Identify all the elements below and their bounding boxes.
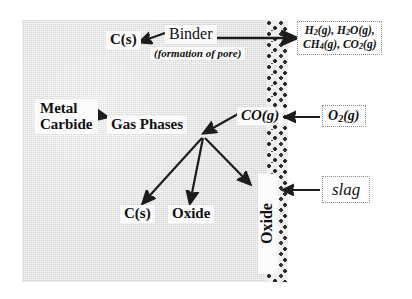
metal-carbide-line-2: Carbide <box>40 116 93 132</box>
metal-carbide-line-1: Metal <box>40 100 77 116</box>
node-metal-carbide: Metal Carbide <box>35 99 98 134</box>
reaction-scheme-diagram: C(s) Binder (formation of pore) Metal Ca… <box>0 0 412 299</box>
external-box-oxygen: O2(g) <box>322 105 366 127</box>
node-gas-phases: Gas Phases <box>107 116 187 134</box>
node-carbon-monoxide-gas: CO(g) <box>237 107 283 125</box>
note-formation-of-pore: (formation of pore) <box>150 47 245 60</box>
node-oxide-scale-label: Oxide <box>258 174 278 274</box>
gas-products-line-1: H2(g), H2O(g), <box>305 24 375 36</box>
gas-products-line-2: CH4(g), CO2(g) <box>303 38 376 50</box>
oxygen-label: O2(g) <box>328 108 360 123</box>
node-oxide-product: Oxide <box>168 205 214 223</box>
external-box-gas-products: H2(g), H2O(g), CH4(g), CO2(g) <box>297 21 382 55</box>
node-carbon-solid-top: C(s) <box>106 31 141 49</box>
external-box-slag: slag <box>322 176 370 203</box>
node-carbon-solid-bottom: C(s) <box>120 205 155 223</box>
node-binder: Binder <box>165 25 217 44</box>
